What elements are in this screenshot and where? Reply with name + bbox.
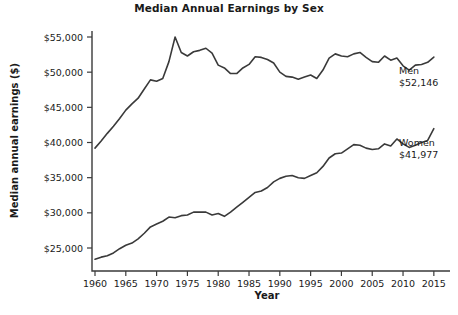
x-tick-label: 1965 [114, 278, 138, 289]
series-value-label-women: $41,977 [399, 149, 438, 160]
x-tick-label: 1995 [299, 278, 323, 289]
y-tick-label: $30,000 [44, 207, 83, 218]
x-tick-label: 1970 [145, 278, 169, 289]
series-value-label-men: $52,146 [399, 77, 438, 88]
x-tick-label: 1990 [268, 278, 292, 289]
series-line-women [95, 129, 434, 260]
y-axis-ticks: $25,000$30,000$35,000$40,000$45,000$50,0… [44, 32, 92, 254]
series-name-label-men: Men [399, 65, 419, 76]
series-name-label-women: Women [399, 137, 435, 148]
y-tick-label: $45,000 [44, 102, 83, 113]
series-line-men [95, 37, 434, 148]
x-tick-label: 2000 [329, 278, 353, 289]
x-tick-label: 1975 [175, 278, 199, 289]
x-tick-label: 2010 [391, 278, 415, 289]
x-axis-ticks: 1960196519701975198019851990199520002005… [83, 271, 446, 289]
chart-figure: Median Annual Earnings by Sex Median ann… [0, 0, 458, 315]
line-chart-plot: $25,000$30,000$35,000$40,000$45,000$50,0… [0, 0, 458, 315]
x-tick-label: 2005 [360, 278, 384, 289]
data-series [95, 37, 434, 259]
y-tick-label: $25,000 [44, 243, 83, 254]
x-tick-label: 1985 [237, 278, 261, 289]
series-annotations: Men$52,146Women$41,977 [399, 65, 438, 160]
axis-lines [92, 31, 450, 271]
x-tick-label: 2015 [422, 278, 446, 289]
y-tick-label: $40,000 [44, 137, 83, 148]
y-tick-label: $55,000 [44, 32, 83, 43]
y-tick-label: $35,000 [44, 172, 83, 183]
x-tick-label: 1960 [83, 278, 107, 289]
y-tick-label: $50,000 [44, 67, 83, 78]
x-tick-label: 1980 [206, 278, 230, 289]
